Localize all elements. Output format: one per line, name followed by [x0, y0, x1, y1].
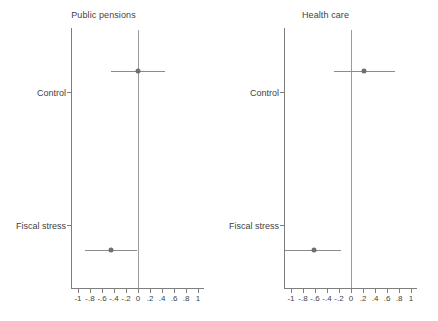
x-axis-tick-label: -1: [287, 294, 294, 303]
x-axis-tick-label: -.6: [97, 294, 106, 303]
coefficient-plot-figure: Public pensions -1-.8-.6-.4-.20.2.4.6.81…: [0, 0, 438, 321]
x-axis-tick: [198, 289, 199, 293]
y-axis-tick: [67, 92, 71, 93]
y-axis-tick: [280, 92, 284, 93]
x-axis-tick-label: -.4: [109, 294, 118, 303]
x-axis-tick-label: .4: [159, 294, 166, 303]
x-axis-tick: [303, 289, 304, 293]
y-axis-tick: [280, 225, 284, 226]
x-axis-tick-label: .2: [147, 294, 154, 303]
x-axis-tick: [363, 289, 364, 293]
estimate-point-marker: [311, 248, 316, 253]
x-axis-tick-label: .4: [372, 294, 379, 303]
x-axis-tick: [399, 289, 400, 293]
x-axis-tick-label: .8: [396, 294, 403, 303]
x-axis-tick: [387, 289, 388, 293]
y-axis-category-label: Fiscal stress: [229, 221, 279, 231]
x-axis-tick: [315, 289, 316, 293]
x-axis-tick-label: -.2: [121, 294, 130, 303]
x-axis-tick: [351, 289, 352, 293]
x-axis-tick: [114, 289, 115, 293]
x-axis-tick-label: -1: [74, 294, 81, 303]
x-axis-tick: [411, 289, 412, 293]
x-axis-tick: [150, 289, 151, 293]
x-axis-tick: [174, 289, 175, 293]
zero-reference-line: [351, 30, 352, 288]
y-axis-category-label: Fiscal stress: [16, 221, 66, 231]
x-axis-tick-label: .2: [360, 294, 367, 303]
plot-area-right: -1-.8-.6-.4-.20.2.4.6.81ControlFiscal st…: [219, 0, 438, 321]
y-axis-line: [71, 28, 72, 288]
y-axis-line: [284, 28, 285, 288]
x-axis-tick-label: -.8: [298, 294, 307, 303]
x-axis-tick-label: -.8: [85, 294, 94, 303]
x-axis-tick: [186, 289, 187, 293]
x-axis-tick-label: 1: [409, 294, 413, 303]
x-axis-tick-label: -.2: [334, 294, 343, 303]
x-axis-tick-label: .8: [183, 294, 190, 303]
x-axis-tick: [375, 289, 376, 293]
x-axis-tick-label: .6: [384, 294, 391, 303]
panel-public-pensions: Public pensions -1-.8-.6-.4-.20.2.4.6.81…: [0, 0, 219, 321]
x-axis-tick-label: 0: [349, 294, 353, 303]
estimate-point-marker: [109, 248, 114, 253]
x-axis-tick: [339, 289, 340, 293]
x-axis-tick-label: -.4: [322, 294, 331, 303]
x-axis-tick-label: .6: [171, 294, 178, 303]
y-axis-tick: [67, 225, 71, 226]
x-axis-tick: [102, 289, 103, 293]
x-axis-tick: [327, 289, 328, 293]
x-axis-tick-label: -.6: [310, 294, 319, 303]
x-axis-tick-label: 1: [196, 294, 200, 303]
estimate-point-marker: [362, 69, 367, 74]
x-axis-tick: [162, 289, 163, 293]
y-axis-category-label: Control: [37, 88, 66, 98]
x-axis-tick: [291, 289, 292, 293]
x-axis-tick: [126, 289, 127, 293]
x-axis-tick-label: 0: [136, 294, 140, 303]
y-axis-category-label: Control: [250, 88, 279, 98]
x-axis-tick: [90, 289, 91, 293]
panel-health-care: Health care -1-.8-.6-.4-.20.2.4.6.81Cont…: [219, 0, 438, 321]
estimate-point-marker: [136, 69, 141, 74]
x-axis-tick: [78, 289, 79, 293]
x-axis-tick: [138, 289, 139, 293]
plot-area-left: -1-.8-.6-.4-.20.2.4.6.81ControlFiscal st…: [0, 0, 219, 321]
